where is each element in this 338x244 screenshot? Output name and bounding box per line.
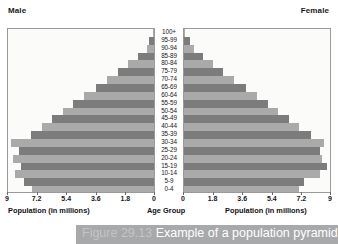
age-group-label: 15-19 xyxy=(155,162,183,170)
age-group-label: 25-29 xyxy=(155,146,183,154)
bar-male-30-34 xyxy=(11,139,154,147)
bar-row xyxy=(8,92,154,100)
bar-male-60-64 xyxy=(84,92,154,100)
bar-female-95-99 xyxy=(184,37,190,45)
bar-male-40-44 xyxy=(42,123,154,131)
bar-female-30-34 xyxy=(184,139,324,147)
bar-row xyxy=(8,163,154,171)
bar-row xyxy=(184,186,330,193)
female-bars-panel xyxy=(183,28,331,193)
x-axis-tick-label: 9 xyxy=(5,195,9,202)
age-group-label: 100+ xyxy=(155,28,183,36)
bar-row xyxy=(8,115,154,123)
bar-row xyxy=(184,139,330,147)
bar-row xyxy=(8,37,154,45)
age-group-label: 70-74 xyxy=(155,75,183,83)
x-axis-tick-label: 3.6 xyxy=(237,195,247,202)
age-group-label: 10-14 xyxy=(155,169,183,177)
x-axis-tick-label: 7.2 xyxy=(32,195,42,202)
x-axis-tick-label: 0 xyxy=(152,195,156,202)
right-axis-title: Population (in millions) xyxy=(225,206,307,215)
bar-male-15-19 xyxy=(21,163,154,171)
age-group-label: 95-99 xyxy=(155,36,183,44)
bar-female-75-79 xyxy=(184,68,223,76)
bar-row xyxy=(8,131,154,139)
x-axis-tick-label: 9 xyxy=(328,195,332,202)
bar-row xyxy=(184,147,330,155)
bar-row xyxy=(8,60,154,68)
bar-female-10-14 xyxy=(184,170,320,178)
bar-male-10-14 xyxy=(15,170,155,178)
bar-female-70-74 xyxy=(184,76,234,84)
bar-row xyxy=(8,100,154,108)
male-legend-label: Male xyxy=(8,6,26,15)
right-x-axis-ticks: 01.83.65.47.29 xyxy=(183,195,331,205)
age-group-label: 30-34 xyxy=(155,138,183,146)
x-axis-tick-label: 1.8 xyxy=(121,195,131,202)
bar-row xyxy=(8,147,154,155)
figure-caption-band: Figure 29.13 Example of a population pyr… xyxy=(76,225,338,244)
female-legend-label: Female xyxy=(301,6,329,15)
bar-male-80-84 xyxy=(128,60,154,68)
bar-female-100plus xyxy=(184,29,185,37)
bar-female-35-39 xyxy=(184,131,311,139)
x-axis-tick-label: 3.6 xyxy=(91,195,101,202)
bar-female-85-89 xyxy=(184,53,203,61)
age-group-label: 20-24 xyxy=(155,154,183,162)
bar-row xyxy=(8,53,154,61)
bar-male-5-9 xyxy=(24,178,154,186)
bar-male-45-49 xyxy=(52,115,154,123)
age-group-axis: 100+95-9990-9485-8980-8475-7970-7465-696… xyxy=(155,28,183,193)
bar-male-55-59 xyxy=(73,100,154,108)
center-axis-title: Age Group xyxy=(147,206,185,215)
age-group-label: 75-79 xyxy=(155,67,183,75)
bar-male-75-79 xyxy=(118,68,154,76)
bar-female-25-29 xyxy=(184,147,320,155)
age-group-label: 90-94 xyxy=(155,44,183,52)
bar-row xyxy=(184,108,330,116)
age-group-label: 65-69 xyxy=(155,83,183,91)
x-axis-tick-label: 1.8 xyxy=(208,195,218,202)
bar-male-0-4 xyxy=(32,186,154,193)
bar-row xyxy=(184,92,330,100)
bar-row xyxy=(184,53,330,61)
bar-row xyxy=(8,45,154,53)
age-group-label: 60-64 xyxy=(155,91,183,99)
age-group-label: 40-44 xyxy=(155,122,183,130)
bar-row xyxy=(184,84,330,92)
bar-row xyxy=(184,178,330,186)
bar-row xyxy=(184,155,330,163)
bar-male-50-54 xyxy=(63,108,154,116)
bar-row xyxy=(8,108,154,116)
bar-male-90-94 xyxy=(147,45,154,53)
bar-row xyxy=(8,76,154,84)
bar-female-15-19 xyxy=(184,163,327,171)
bar-female-5-9 xyxy=(184,178,304,186)
bar-female-45-49 xyxy=(184,115,289,123)
bar-row xyxy=(8,139,154,147)
bar-row xyxy=(8,170,154,178)
x-axis-tick-label: 0 xyxy=(181,195,185,202)
left-x-axis-ticks: 97.25.43.61.80 xyxy=(7,195,155,205)
bar-female-20-24 xyxy=(184,155,322,163)
bar-row xyxy=(184,68,330,76)
bar-row xyxy=(8,29,154,37)
bar-row xyxy=(184,131,330,139)
left-axis-title: Population (in millions) xyxy=(8,206,90,215)
bar-female-40-44 xyxy=(184,123,299,131)
bar-row xyxy=(184,37,330,45)
age-group-label: 80-84 xyxy=(155,59,183,67)
bar-male-95-99 xyxy=(149,37,154,45)
bar-row xyxy=(184,100,330,108)
bar-row xyxy=(8,68,154,76)
male-bars-panel xyxy=(7,28,155,193)
age-group-label: 0-4 xyxy=(155,185,183,193)
bar-female-60-64 xyxy=(184,92,257,100)
bar-female-55-59 xyxy=(184,100,268,108)
figure-caption-text: Example of a population pyramid xyxy=(156,226,338,240)
x-axis-tick-label: 5.4 xyxy=(61,195,71,202)
bar-row xyxy=(184,115,330,123)
bar-row xyxy=(184,123,330,131)
bar-male-85-89 xyxy=(138,53,154,61)
population-pyramid-figure: Male Female 100+95-9990-9485-8980-8475-7… xyxy=(0,0,338,244)
